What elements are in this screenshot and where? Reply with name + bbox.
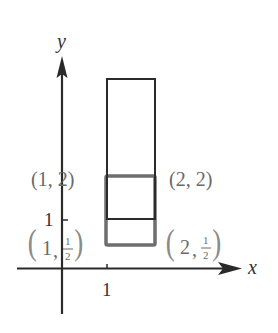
svg-text:,: , [192, 238, 197, 260]
svg-text:): ) [212, 222, 221, 262]
svg-text:1: 1 [203, 234, 209, 246]
svg-text:,: , [53, 239, 58, 261]
point-label-top-left: (1, 2) [31, 168, 74, 191]
coordinate-diagram: y x 1 1 (1, 2) (2, 2) ( 1 , 1 2 ) ( 2 , … [0, 0, 278, 333]
y-tick-label: 1 [44, 209, 54, 230]
svg-text:2: 2 [65, 250, 71, 262]
svg-text:2: 2 [203, 249, 209, 261]
svg-text:2: 2 [180, 236, 190, 258]
svg-text:1: 1 [42, 237, 52, 259]
point-label-bottom-left: ( 1 , 1 2 ) [28, 222, 83, 262]
tall-rectangle [107, 79, 155, 219]
short-rectangle [106, 176, 155, 245]
x-axis-label: x [247, 256, 257, 278]
x-tick-label: 1 [102, 279, 112, 300]
svg-text:(: ( [28, 222, 37, 262]
svg-text:1: 1 [65, 235, 71, 247]
point-label-top-right: (2, 2) [169, 168, 212, 191]
point-label-bottom-right: ( 2 , 1 2 ) [166, 222, 221, 262]
y-axis-label: y [55, 30, 66, 53]
svg-text:): ) [74, 222, 83, 262]
svg-text:(: ( [166, 222, 175, 262]
